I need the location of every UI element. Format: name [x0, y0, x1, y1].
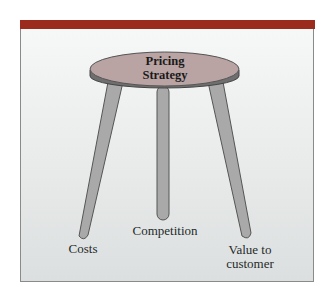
leg-competition: [157, 86, 169, 220]
leg-value: [208, 82, 251, 238]
seat-label: Pricing Strategy: [115, 54, 215, 82]
leg-label-value-line1: Value to: [215, 243, 285, 257]
leg-label-competition: Competition: [125, 224, 205, 238]
leg-costs: [79, 82, 123, 239]
leg-label-value-line2: customer: [215, 257, 285, 271]
leg-label-value: Value to customer: [215, 243, 285, 271]
seat-label-line1: Pricing: [115, 54, 215, 68]
leg-label-costs: Costs: [58, 242, 108, 256]
seat-label-line2: Strategy: [115, 68, 215, 82]
